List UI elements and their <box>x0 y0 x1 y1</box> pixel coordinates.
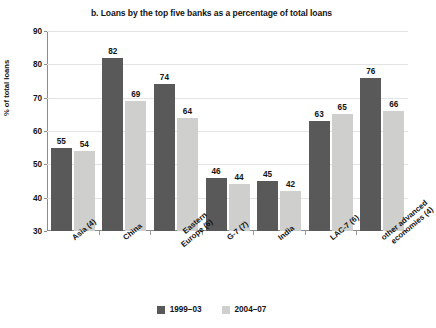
y-tick-label: 60 <box>33 127 42 136</box>
x-tick-mark <box>305 231 306 235</box>
x-tick-mark <box>253 231 254 235</box>
bar: 69 <box>125 101 146 231</box>
legend-item: 2004–07 <box>222 305 267 314</box>
bar: 45 <box>257 181 278 231</box>
y-tick-label: 40 <box>33 193 42 202</box>
bar: 82 <box>102 58 123 231</box>
y-tick-label: 80 <box>33 60 42 69</box>
gridline <box>47 164 408 165</box>
gridline <box>47 131 408 132</box>
bar-value-label: 69 <box>131 90 140 99</box>
bar-value-label: 54 <box>80 140 89 149</box>
bar: 64 <box>177 118 198 231</box>
y-tick-label: 70 <box>33 93 42 102</box>
y-tick-mark <box>44 231 47 232</box>
bar: 55 <box>51 148 72 231</box>
bar-value-label: 42 <box>286 180 295 189</box>
bar-value-label: 74 <box>160 73 169 82</box>
chart-legend: 1999–032004–07 <box>0 305 423 314</box>
y-tick-mark <box>44 198 47 199</box>
bar-value-label: 82 <box>108 47 117 56</box>
y-axis-title: % of total loans <box>2 26 11 116</box>
bar: 66 <box>383 111 404 231</box>
legend-swatch <box>157 306 165 314</box>
bar-value-label: 76 <box>366 67 375 76</box>
plot-area: 3040506070809055548269746446444542636576… <box>47 31 408 231</box>
gridline <box>47 31 408 32</box>
bar-value-label: 45 <box>263 170 272 179</box>
bar-value-label: 44 <box>234 173 243 182</box>
x-tick-mark <box>99 231 100 235</box>
bar: 74 <box>154 84 175 231</box>
y-tick-label: 90 <box>33 27 42 36</box>
bar-value-label: 55 <box>57 137 66 146</box>
x-tick-mark <box>150 231 151 235</box>
gridline <box>47 198 408 199</box>
bar-value-label: 64 <box>183 107 192 116</box>
y-tick-mark <box>44 64 47 65</box>
x-axis-line <box>47 230 408 231</box>
bar-value-label: 63 <box>315 110 324 119</box>
bar-value-label: 46 <box>211 167 220 176</box>
bar-value-label: 66 <box>389 100 398 109</box>
chart-title: b. Loans by the top five banks as a perc… <box>0 8 423 18</box>
gridline <box>47 98 408 99</box>
y-tick-mark <box>44 164 47 165</box>
gridline <box>47 64 408 65</box>
bar: 76 <box>360 78 381 231</box>
legend-label: 1999–03 <box>170 305 202 314</box>
bar: 63 <box>309 121 330 231</box>
legend-swatch <box>222 306 230 314</box>
y-tick-mark <box>44 98 47 99</box>
x-tick-mark <box>356 231 357 235</box>
bar-value-label: 65 <box>338 103 347 112</box>
bar: 65 <box>332 114 353 231</box>
legend-item: 1999–03 <box>157 305 202 314</box>
y-tick-label: 50 <box>33 160 42 169</box>
y-tick-mark <box>44 131 47 132</box>
y-tick-mark <box>44 31 47 32</box>
legend-label: 2004–07 <box>235 305 267 314</box>
y-tick-label: 30 <box>33 227 42 236</box>
